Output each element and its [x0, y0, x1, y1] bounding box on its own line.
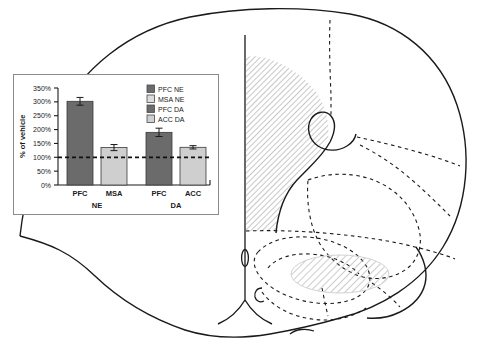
chart-legend: PFC NEMSA NEPFC DAACC DA	[147, 85, 185, 123]
bar-chart: 350% 300% 250% 200% 150% 100% 50% 0% % o…	[14, 75, 220, 216]
y-tick-label: 100%	[33, 154, 51, 161]
y-tick-label: 250%	[33, 112, 51, 119]
x-group-label: NE	[92, 201, 102, 210]
category-labels-layer: PFCMSAPFCACCNEDA	[73, 189, 202, 210]
x-group-label: DA	[171, 201, 182, 210]
y-tick-label: 150%	[33, 140, 51, 147]
legend-label: ACC DA	[158, 116, 185, 123]
legend-swatch	[147, 85, 155, 93]
pfc-hatched-region	[246, 56, 329, 231]
y-tick-label: 200%	[33, 126, 51, 133]
bar-pfc-da	[146, 132, 172, 185]
legend-swatch	[147, 95, 155, 103]
legend-label: PFC NE	[158, 86, 184, 93]
legend-label: PFC DA	[158, 106, 184, 113]
x-tick-label: PFC	[152, 189, 168, 198]
legend-swatch	[147, 115, 155, 123]
inset-bar-chart-panel: 350% 300% 250% 200% 150% 100% 50% 0% % o…	[13, 74, 219, 215]
x-tick-label: ACC	[185, 189, 202, 198]
figure-root: 350% 300% 250% 200% 150% 100% 50% 0% % o…	[0, 0, 486, 350]
accumbens-hatched-region	[291, 255, 389, 293]
x-tick-label: MSA	[106, 189, 123, 198]
bar-msa-ne	[101, 148, 127, 185]
x-tick-label: PFC	[73, 189, 89, 198]
y-tick-label: 50%	[37, 168, 51, 175]
bars-layer	[67, 97, 206, 185]
bar-pfc-ne	[67, 101, 93, 185]
y-tick-group: 350% 300% 250% 200% 150% 100% 50% 0%	[33, 85, 58, 189]
legend-label: MSA NE	[158, 96, 185, 103]
y-tick-label: 350%	[33, 85, 51, 92]
y-tick-label: 0%	[41, 182, 51, 189]
y-axis-title: % of vehicle	[18, 115, 27, 158]
bar-acc-da	[180, 147, 206, 185]
legend-swatch	[147, 105, 155, 113]
y-tick-label: 300%	[33, 98, 51, 105]
